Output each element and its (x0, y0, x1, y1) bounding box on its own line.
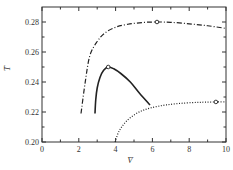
y-tick-label: 0.28 (25, 18, 39, 27)
series-line-dash-dot (81, 22, 225, 114)
x-tick-label: 2 (77, 145, 81, 154)
chart: 02468100.200.220.240.260.28 V̄ T̄ (0, 0, 233, 170)
series-marker-solid (106, 65, 110, 69)
y-tick-label: 0.24 (25, 78, 39, 87)
plot-frame (42, 7, 226, 142)
series-line-solid (95, 67, 150, 114)
x-tick-label: 4 (114, 145, 118, 154)
axes: 02468100.200.220.240.260.28 (25, 7, 230, 154)
x-tick-label: 0 (40, 145, 44, 154)
series-marker-dotted (214, 100, 218, 104)
y-tick-label: 0.26 (25, 48, 39, 57)
x-tick-label: 10 (222, 145, 230, 154)
series-group (81, 20, 225, 142)
y-axis-label: T̄ (2, 65, 12, 71)
series-marker-dash-dot (155, 20, 159, 24)
y-tick-label: 0.20 (25, 138, 39, 147)
y-tick-label: 0.22 (25, 108, 39, 117)
x-tick-label: 6 (150, 145, 154, 154)
x-axis-label: V̄ (127, 155, 134, 165)
x-tick-label: 8 (187, 145, 191, 154)
series-line-dotted (115, 102, 225, 142)
